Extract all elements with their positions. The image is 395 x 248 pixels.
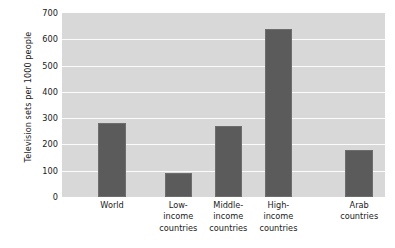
y-axis-tick-0: 0 — [28, 192, 58, 202]
x-axis-label-world: World — [77, 200, 148, 211]
bar-chart: Television sets per 1000 people 70060050… — [0, 0, 395, 248]
bar-slot — [345, 13, 372, 197]
bar-slot — [165, 13, 192, 197]
y-axis-tick-400: 400 — [28, 87, 58, 97]
y-axis-tick-600: 600 — [28, 34, 58, 44]
x-axis-label-arab-countries: Arabcountries — [324, 200, 395, 223]
bar-low-income-countries — [165, 173, 192, 197]
x-axis-label-high-income-countries: High-incomecountries — [243, 200, 314, 234]
bar-slot — [265, 13, 292, 197]
y-axis-tick-labels: 7006005004003002001000 — [28, 13, 58, 197]
y-axis-tick-200: 200 — [28, 139, 58, 149]
y-axis-tick-300: 300 — [28, 113, 58, 123]
bar-middle-income-countries — [215, 126, 242, 197]
bar-arab-countries — [345, 150, 372, 197]
y-axis-tick-100: 100 — [28, 166, 58, 176]
bar-high-income-countries — [265, 29, 292, 197]
bar-world — [98, 123, 125, 197]
bar-slot — [215, 13, 242, 197]
y-axis-tick-700: 700 — [28, 8, 58, 18]
bar-slot — [98, 13, 125, 197]
x-axis-category-labels: WorldLow-incomecountriesMiddle-incomecou… — [62, 200, 385, 246]
bars-layer — [62, 13, 385, 197]
y-axis-tick-500: 500 — [28, 61, 58, 71]
plot-area — [62, 13, 385, 197]
